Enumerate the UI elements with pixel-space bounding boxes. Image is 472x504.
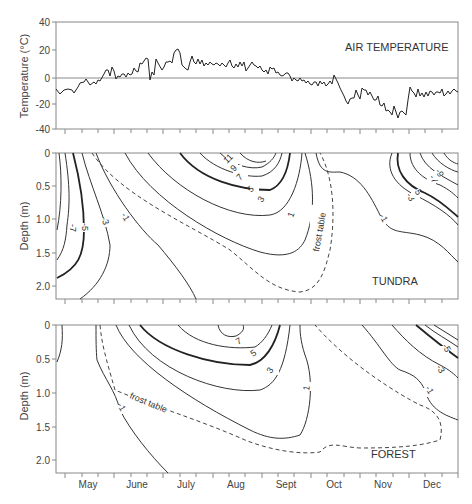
tundra-depth-axis-label: Depth (m) bbox=[18, 202, 30, 251]
forest-depth-tick-0: 0 bbox=[44, 320, 50, 331]
forest-depth-tick-05: 0.5 bbox=[36, 354, 50, 365]
forest-y-ticks bbox=[52, 325, 56, 460]
temp-tick-40: 40 bbox=[39, 17, 51, 28]
tundra-depth-tick-15: 1.5 bbox=[36, 248, 50, 259]
tundra-contour-r13 bbox=[444, 153, 458, 164]
tundra-contour-m7 bbox=[57, 153, 69, 260]
forest-frost-table bbox=[100, 325, 441, 453]
tundra-label-m5: -5 bbox=[80, 223, 90, 231]
tundra-y-ticks bbox=[52, 153, 56, 286]
temp-tick-0: 0 bbox=[44, 73, 50, 84]
month-labels: May June July Aug Sept Oct Nov Dec bbox=[79, 479, 441, 490]
forest-depth-axis-label: Depth (m) bbox=[18, 372, 30, 421]
tundra-depth-tick-20: 2.0 bbox=[36, 281, 50, 292]
temperature-axis-label: Temperature (°C) bbox=[18, 34, 30, 118]
tundra-contour-p11 bbox=[240, 153, 266, 162]
forest-contour-p9 bbox=[218, 325, 244, 337]
air-temperature-panel: 40 20 0 -20 -40 AIR TEMPERATURE Temperat… bbox=[18, 17, 458, 135]
forest-contour-m1-left bbox=[57, 325, 62, 362]
tundra-x-ticks bbox=[65, 299, 442, 304]
forest-x-ticks bbox=[65, 473, 458, 478]
tundra-contour-m9 bbox=[57, 153, 61, 230]
forest-contour-p7 bbox=[178, 325, 272, 348]
tundra-depth-tick-10: 1.0 bbox=[36, 214, 50, 225]
month-oct: Oct bbox=[326, 479, 342, 490]
air-temperature-line bbox=[56, 49, 458, 118]
tundra-frost-table bbox=[92, 153, 333, 292]
month-aug: Aug bbox=[227, 479, 245, 490]
tundra-label-m7: -7 bbox=[68, 224, 78, 232]
month-sept: Sept bbox=[276, 479, 297, 490]
temp-y-ticks: 40 20 0 -20 -40 bbox=[36, 17, 56, 135]
forest-panel: 0 0.5 1.0 1.5 2.0 Depth (m) May June Jul… bbox=[18, 320, 458, 490]
temp-x-ticks bbox=[65, 129, 442, 134]
forest-title: FOREST bbox=[371, 448, 416, 460]
forest-depth-tick-15: 1.5 bbox=[36, 422, 50, 433]
forest-contour-r5 bbox=[416, 325, 458, 358]
forest-contour-r9 bbox=[434, 325, 458, 340]
tundra-depth-tick-05: 0.5 bbox=[36, 181, 50, 192]
air-temp-frame bbox=[56, 22, 458, 129]
tundra-title: TUNDRA bbox=[372, 275, 418, 287]
tundra-depth-tick-0: 0 bbox=[44, 148, 50, 159]
temp-tick-m20: -20 bbox=[36, 99, 51, 110]
forest-contour-p3 bbox=[129, 325, 290, 391]
forest-depth-tick-20: 2.0 bbox=[36, 455, 50, 466]
month-dec: Dec bbox=[423, 479, 441, 490]
month-july: July bbox=[177, 479, 195, 490]
forest-depth-tick-10: 1.0 bbox=[36, 388, 50, 399]
forest-contour-p1 bbox=[116, 325, 310, 438]
forest-contour-r1 bbox=[362, 325, 458, 420]
month-nov: Nov bbox=[374, 479, 392, 490]
month-may: May bbox=[79, 479, 98, 490]
temp-tick-20: 20 bbox=[39, 45, 51, 56]
tundra-panel: 0 0.5 1.0 1.5 2.0 Depth (m) bbox=[18, 148, 458, 304]
month-june: June bbox=[126, 479, 148, 490]
air-temperature-title: AIR TEMPERATURE bbox=[345, 41, 449, 53]
permafrost-figure: 40 20 0 -20 -40 AIR TEMPERATURE Temperat… bbox=[0, 0, 472, 504]
temp-tick-m40: -40 bbox=[36, 124, 51, 135]
tundra-contour-p1 bbox=[125, 153, 313, 255]
